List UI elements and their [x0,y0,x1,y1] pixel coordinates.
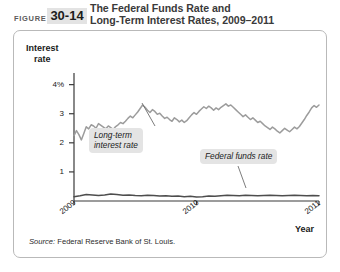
source-text: Federal Reserve Bank of St. Louis. [55,237,175,246]
y-axis-tick-label: 3 [38,109,64,118]
figure-title-line-2: Long-Term Interest Rates, 2009–2011 [90,14,338,26]
figure-title: The Federal Funds Rate and Long-Term Int… [90,2,338,27]
federal-funds-rate-line [74,194,319,197]
federal-funds-callout-line-1: Federal funds rate [205,151,272,161]
long-term-callout-leader-line [142,103,155,126]
figure-header: FIGURE 30-14 The Federal Funds Rate and … [0,0,340,30]
figure-container: FIGURE 30-14 The Federal Funds Rate and … [0,0,340,272]
source-note: Source: Federal Reserve Bank of St. Loui… [29,237,175,246]
figure-word-label: FIGURE [14,14,47,23]
long-term-callout-line-2: interest rate [94,140,138,150]
federal-funds-rate-callout: Federal funds rate [200,149,277,164]
federal-funds-callout-leader-line [238,166,246,188]
long-term-interest-rate-callout: Long-term interest rate [89,128,143,153]
figure-title-line-1: The Federal Funds Rate and [90,2,338,14]
y-axis-title: Interest rate [26,43,59,64]
long-term-callout-line-1: Long-term [94,130,138,140]
y-axis-ticks [69,85,74,172]
chart-panel: Interest rate Year 4%321 200920102011 Lo… [13,30,327,258]
source-label: Source: [29,237,55,246]
y-axis-tick-label: 4% [38,80,64,89]
y-axis-title-line-1: Interest [26,43,59,54]
y-axis-tick-label: 2 [38,138,64,147]
y-axis-title-line-2: rate [26,54,59,65]
figure-number-badge: 30-14 [47,8,87,24]
x-axis-title: Year [295,224,314,235]
y-axis-tick-label: 1 [38,167,64,176]
